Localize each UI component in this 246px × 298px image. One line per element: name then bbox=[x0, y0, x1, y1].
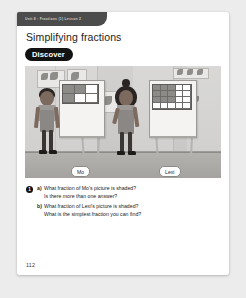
mo-pinafore bbox=[40, 110, 54, 132]
question-number-badge: 1 bbox=[26, 186, 33, 193]
question-item-b: b) What fraction of Lexi's picture is sh… bbox=[37, 203, 220, 218]
lexi-hair-bun bbox=[122, 79, 130, 87]
classroom-illustration: Mo Lexi bbox=[25, 66, 221, 178]
poster-leaf-a bbox=[41, 73, 48, 80]
mo-shoe-left bbox=[39, 150, 47, 154]
question-a-label: a) bbox=[37, 185, 44, 192]
page-title: Simplifying fractions bbox=[26, 31, 121, 43]
question-item-a: a) What fraction of Mo's picture is shad… bbox=[37, 185, 220, 200]
poster-leaf-c bbox=[71, 72, 79, 80]
poster-leaf-d bbox=[177, 69, 183, 75]
question-a-text: What fraction of Mo's picture is shaded? bbox=[44, 185, 136, 192]
question-block: 1 a) What fraction of Mo's picture is sh… bbox=[26, 185, 220, 221]
question-b-row: b) What fraction of Lexi's picture is sh… bbox=[37, 203, 220, 210]
classroom-floor bbox=[25, 152, 221, 178]
grid-cell bbox=[176, 103, 184, 109]
lexi-shoe-right bbox=[128, 151, 136, 155]
nametag-lexi-label: Lexi bbox=[165, 169, 175, 175]
lexi-pinafore bbox=[118, 110, 134, 134]
grid-cell bbox=[168, 103, 176, 109]
mo-leg-left bbox=[42, 130, 46, 152]
grid-cell bbox=[153, 103, 161, 109]
lexi-shoe-left bbox=[117, 151, 125, 155]
lexi-leg-left bbox=[120, 132, 124, 153]
lexi-head bbox=[119, 90, 133, 106]
running-head-text: Unit 8 : Fractions (1) Lesson 2 bbox=[25, 17, 81, 21]
lexi-leg-right bbox=[128, 132, 132, 153]
grid-cell bbox=[75, 85, 87, 94]
section-badge-label: Discover bbox=[32, 50, 65, 59]
nametag-mo: Mo bbox=[71, 166, 90, 177]
mo-leg-right bbox=[49, 130, 53, 152]
question-b-label: b) bbox=[37, 203, 44, 210]
grid-cell bbox=[86, 94, 98, 103]
page-root: Unit 8 : Fractions (1) Lesson 2 Simplify… bbox=[0, 0, 246, 298]
nametag-mo-label: Mo bbox=[77, 169, 84, 175]
easel-right-tray bbox=[149, 136, 196, 138]
question-b-text: What fraction of Lexi's picture is shade… bbox=[44, 203, 138, 210]
grid-cell bbox=[86, 85, 98, 94]
page-number: 112 bbox=[26, 262, 35, 268]
grid-cell bbox=[161, 103, 169, 109]
grid-cell bbox=[183, 103, 191, 109]
mo-head bbox=[40, 91, 54, 106]
poster-leaf-b bbox=[50, 72, 58, 80]
poster-leaf-e bbox=[187, 69, 193, 75]
easel-left-tray bbox=[59, 136, 104, 138]
question-b-followup: What is the simplest fraction you can fi… bbox=[44, 211, 220, 218]
fraction-grid-mo bbox=[62, 84, 99, 104]
textbook-page-card: Unit 8 : Fractions (1) Lesson 2 Simplify… bbox=[17, 12, 229, 275]
grid-cell bbox=[63, 85, 75, 94]
running-head-tab: Unit 8 : Fractions (1) Lesson 2 bbox=[17, 12, 107, 26]
fraction-grid-lexi bbox=[152, 84, 192, 110]
question-a-row: a) What fraction of Mo's picture is shad… bbox=[37, 185, 220, 192]
grid-cell bbox=[75, 94, 87, 103]
grid-cell bbox=[63, 94, 75, 103]
question-a-followup: Is there more than one answer? bbox=[44, 193, 220, 200]
nametag-lexi: Lexi bbox=[159, 166, 181, 177]
mo-shoe-right bbox=[49, 150, 57, 154]
poster-leaf-f bbox=[197, 69, 203, 75]
section-badge-discover: Discover bbox=[25, 48, 73, 61]
